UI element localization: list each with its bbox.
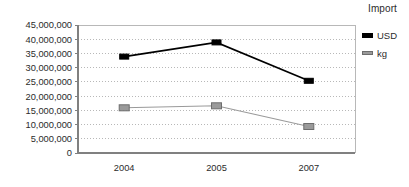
y-tick-label-7: 35,000,000 [25,49,72,59]
y-tick-label-5: 25,000,000 [25,77,72,87]
data-point-usd-2007[interactable] [304,78,313,83]
y-tick-label-4: 20,000,000 [25,92,72,102]
y-tick-label-6: 30,000,000 [25,63,72,73]
data-point-usd-2005[interactable] [212,40,221,45]
x-tick-label-2: 2007 [298,163,319,173]
legend-label-usd: USD [377,30,397,41]
data-point-usd-2004[interactable] [120,54,129,59]
series-line-usd [124,42,309,80]
chart-legend: USD kg [362,28,409,64]
legend-label-kg: kg [377,48,387,59]
y-tick-label-3: 15,000,000 [25,106,72,116]
y-tick-label-0: 0 [67,148,72,158]
data-point-kg-2007[interactable] [304,124,314,130]
x-tick-label-1: 2005 [206,163,227,173]
legend-swatch-kg-icon [362,51,373,55]
legend-swatch-usd-icon [362,33,373,38]
plot-area: 05,000,00010,000,00015,000,00020,000,000… [0,0,409,187]
y-tick-label-8: 40,000,000 [25,35,72,45]
data-point-kg-2005[interactable] [212,103,222,109]
y-tick-label-1: 5,000,000 [31,134,72,144]
y-tick-label-9: 45,000,000 [25,20,72,30]
legend-item-kg[interactable]: kg [362,46,409,60]
x-tick-label-0: 2004 [114,163,135,173]
y-axis-tick-labels: 05,000,00010,000,00015,000,00020,000,000… [25,20,72,158]
x-axis-tick-labels: 200420052007 [114,163,319,173]
legend-item-usd[interactable]: USD [362,28,409,42]
import-line-chart: Import 05,000,00010,000,00015,000,00020,… [0,0,409,187]
y-tick-label-2: 10,000,000 [25,120,72,130]
data-point-kg-2004[interactable] [119,105,129,111]
